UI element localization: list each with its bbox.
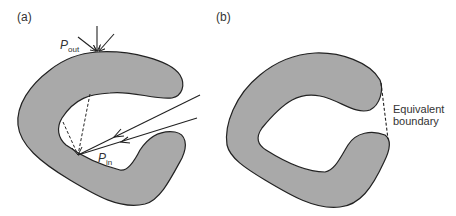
panel-a-label: (a) [17,10,32,24]
panel-b: (b) Equivalent boundary [216,10,444,207]
reflected-ray-1 [78,94,90,155]
c-shaped-body-a [18,52,186,206]
panel-a: (a) Pout Pin [17,10,200,205]
incident-arrow-left [78,37,96,51]
incident-arrow-right [99,34,114,51]
c-shaped-body-b [227,53,390,207]
diagram-canvas: (a) Pout Pin (b) Equivalent boundary [0,0,456,216]
p-out-label: Pout [60,38,80,54]
equivalent-boundary-line [381,83,388,139]
panel-b-label: (b) [216,10,231,24]
equivalent-boundary-label-line2: boundary [393,115,439,127]
equivalent-boundary-label-line1: Equivalent [393,103,444,115]
p-in-label: Pin [98,151,112,167]
